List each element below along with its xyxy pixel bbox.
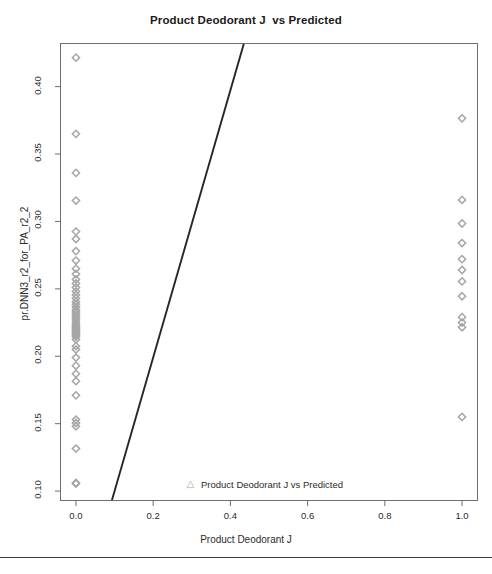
y-tick-label: 0.20: [32, 338, 43, 372]
x-tick-label: 0.8: [365, 510, 405, 521]
y-tick-label: 0.35: [32, 136, 43, 170]
scatter-plot-figure: Product Deodorant J vs Predicted pr.DNN3…: [0, 0, 492, 574]
legend-entry-label: Product Deodorant J vs Predicted: [201, 479, 343, 490]
triangle-up-open-icon: [186, 480, 195, 489]
y-tick-label: 0.25: [32, 270, 43, 304]
y-tick-label: 0.30: [32, 203, 43, 237]
y-tick-label: 0.40: [32, 68, 43, 102]
x-axis-label: Product Deodorant J: [0, 534, 492, 545]
x-tick-label: 1.0: [442, 510, 482, 521]
y-axis-label: pr.DNN3_r2_for_PA_r2_2: [19, 164, 30, 364]
bottom-separator: [0, 557, 492, 558]
plot-frame: [60, 43, 478, 501]
y-tick-label: 0.15: [32, 405, 43, 439]
y-tick-label: 0.10: [32, 473, 43, 507]
x-tick-label: 0.4: [210, 510, 250, 521]
x-tick-label: 0.0: [56, 510, 96, 521]
x-tick-label: 0.6: [288, 510, 328, 521]
legend: Product Deodorant J vs Predicted: [186, 479, 343, 490]
page-title: Product Deodorant J vs Predicted: [0, 14, 492, 26]
x-tick-label: 0.2: [133, 510, 173, 521]
